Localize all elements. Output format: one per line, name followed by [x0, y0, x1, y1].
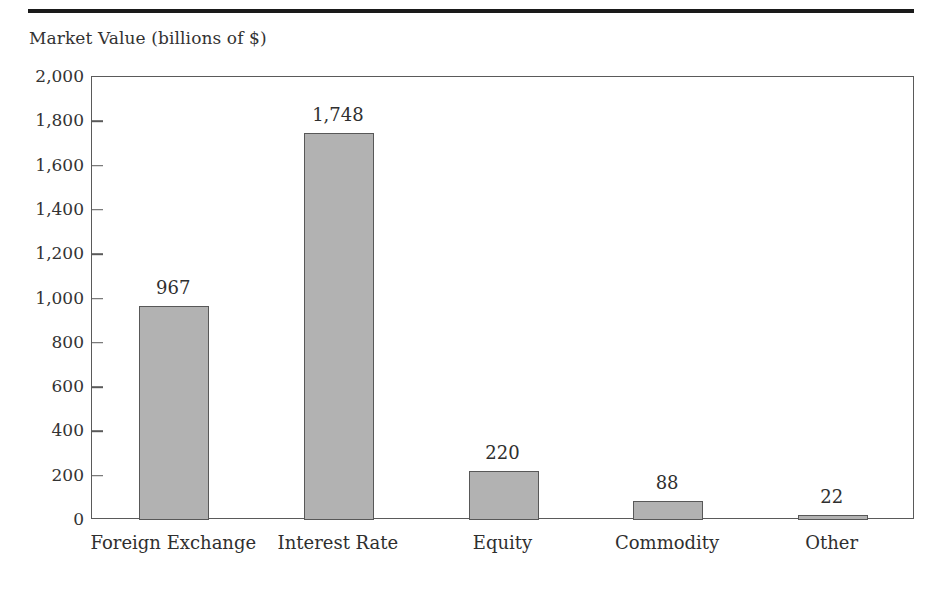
bar — [469, 471, 539, 520]
y-axis-tick-mark — [92, 209, 103, 211]
bar — [798, 515, 868, 520]
y-axis-tick-mark — [92, 386, 103, 388]
bar — [304, 133, 374, 520]
x-axis-category-label: Commodity — [615, 532, 719, 553]
y-axis-tick-mark — [92, 121, 103, 123]
y-axis-tick-label: 800 — [6, 332, 84, 352]
y-axis-tick-label: 1,600 — [6, 155, 84, 175]
bar — [633, 501, 703, 520]
figure: Market Value (billions of $) 02004006008… — [0, 0, 936, 591]
y-axis-tick-label: 1,400 — [6, 199, 84, 219]
y-axis-tick-mark — [92, 342, 103, 344]
bar-value-label: 88 — [656, 472, 679, 493]
bar-value-label: 1,748 — [312, 104, 364, 125]
bar-value-label: 22 — [820, 486, 843, 507]
y-axis-tick-mark — [92, 475, 103, 477]
y-axis-tick-mark — [92, 165, 103, 167]
y-axis-tick-label: 200 — [6, 465, 84, 485]
x-axis-category-label: Other — [805, 532, 858, 553]
x-axis-category-label: Foreign Exchange — [90, 532, 256, 553]
y-axis-tick-label: 0 — [6, 509, 84, 529]
y-axis-tick-labels: 02004006008001,0001,2001,4001,6001,8002,… — [0, 0, 84, 591]
bar-value-label: 220 — [485, 442, 519, 463]
y-axis-tick-mark — [92, 253, 103, 255]
y-axis-tick-label: 1,000 — [6, 288, 84, 308]
x-axis-category-label: Equity — [473, 532, 532, 553]
x-axis-category-label: Interest Rate — [278, 532, 399, 553]
y-axis-tick-label: 600 — [6, 376, 84, 396]
y-axis-tick-label: 400 — [6, 420, 84, 440]
top-rule-divider — [28, 9, 914, 13]
y-axis-tick-label: 2,000 — [6, 66, 84, 86]
bar — [139, 306, 209, 520]
y-axis-tick-label: 1,200 — [6, 243, 84, 263]
bar-value-label: 967 — [156, 277, 190, 298]
y-axis-tick-label: 1,800 — [6, 110, 84, 130]
y-axis-tick-mark — [92, 298, 103, 300]
y-axis-tick-mark — [92, 431, 103, 433]
